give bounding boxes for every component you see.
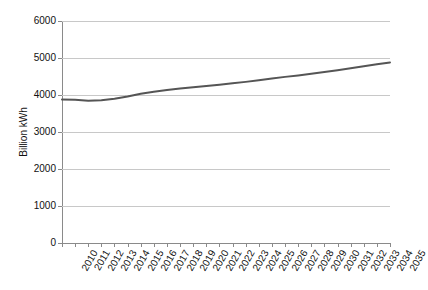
x-tick-mark-2022 xyxy=(219,243,220,247)
x-axis-tick-labels: 2010201120122013201420152016201720182019… xyxy=(62,248,390,290)
x-tick-mark-2023 xyxy=(233,243,234,247)
y-tick-label-0: 0 xyxy=(24,238,56,248)
y-tick-label-3000: 3000 xyxy=(24,127,56,137)
x-tick-mark-2018 xyxy=(167,243,168,247)
x-tick-mark-2025 xyxy=(259,243,260,247)
x-tick-mark-2032 xyxy=(351,243,352,247)
x-tick-mark-2027 xyxy=(285,243,286,247)
y-tick-label-4000: 4000 xyxy=(24,90,56,100)
x-tick-mark-2030 xyxy=(324,243,325,247)
x-tick-mark-2016 xyxy=(141,243,142,247)
x-tick-mark-2017 xyxy=(154,243,155,247)
y-tick-label-5000: 5000 xyxy=(24,53,56,63)
x-tick-mark-2021 xyxy=(206,243,207,247)
series-line-electricity-consumption xyxy=(62,21,390,243)
x-tick-mark-2010 xyxy=(62,243,63,247)
x-tick-mark-2024 xyxy=(246,243,247,247)
x-tick-mark-2026 xyxy=(272,243,273,247)
x-tick-mark-2034 xyxy=(377,243,378,247)
y-tick-label-2000: 2000 xyxy=(24,164,56,174)
x-tick-mark-2015 xyxy=(128,243,129,247)
x-tick-mark-2019 xyxy=(180,243,181,247)
x-tick-mark-2035 xyxy=(390,243,391,247)
x-tick-mark-2020 xyxy=(193,243,194,247)
y-tick-label-1000: 1000 xyxy=(24,201,56,211)
plot-area xyxy=(62,21,390,243)
x-tick-mark-2012 xyxy=(88,243,89,247)
x-tick-mark-2031 xyxy=(338,243,339,247)
y-tick-label-6000: 6000 xyxy=(24,16,56,26)
x-tick-mark-2033 xyxy=(364,243,365,247)
y-axis-tick-labels: 0100020003000400050006000 xyxy=(24,0,56,290)
x-tick-mark-2029 xyxy=(311,243,312,247)
x-tick-mark-2028 xyxy=(298,243,299,247)
x-tick-mark-2014 xyxy=(114,243,115,247)
x-tick-mark-2011 xyxy=(75,243,76,247)
